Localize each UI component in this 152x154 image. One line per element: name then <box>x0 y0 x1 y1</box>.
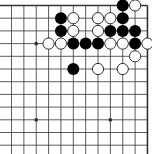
white-stone <box>92 13 103 24</box>
white-stone <box>130 51 141 62</box>
white-stone <box>68 25 79 36</box>
black-stone <box>55 12 67 24</box>
white-stone <box>105 13 116 24</box>
black-stone <box>67 38 79 50</box>
white-stone <box>117 63 128 74</box>
black-stone <box>117 0 129 12</box>
black-stone <box>117 25 129 37</box>
go-board <box>0 0 152 154</box>
black-stone <box>55 25 67 37</box>
white-stone <box>92 25 103 36</box>
white-stone <box>92 63 103 74</box>
black-stone <box>104 25 116 37</box>
white-stone <box>68 13 79 24</box>
white-stone <box>43 38 54 49</box>
white-stone <box>117 38 128 49</box>
star-point <box>108 118 112 122</box>
black-stone <box>129 38 141 50</box>
black-stone <box>117 12 129 24</box>
white-stone <box>130 0 141 11</box>
white-stone <box>105 38 116 49</box>
star-point <box>34 42 38 46</box>
white-stone <box>142 38 152 49</box>
white-stone <box>55 38 66 49</box>
black-stone <box>92 38 104 50</box>
black-stone <box>67 63 79 75</box>
star-point <box>34 118 38 122</box>
stones <box>43 0 152 75</box>
black-stone <box>129 25 141 37</box>
black-stone <box>80 38 92 50</box>
